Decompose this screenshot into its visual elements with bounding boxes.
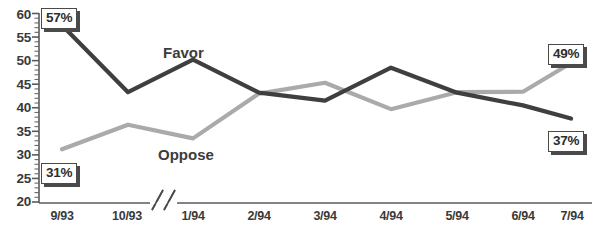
series-label-oppose: Oppose <box>158 147 214 162</box>
callout-oppose-start: 31% <box>41 163 77 184</box>
x-tick-label: 2/94 <box>247 210 270 223</box>
y-axis <box>32 13 39 203</box>
line-chart: 60 55 50 45 40 35 30 25 20 9/93 10 <box>0 0 599 237</box>
callout-favor-start: 57% <box>41 8 77 29</box>
x-tick-label: 9/93 <box>50 210 73 223</box>
callout-oppose-end: 49% <box>548 44 584 65</box>
x-tick-label: 1/94 <box>181 210 204 223</box>
series-label-favor: Favor <box>163 45 204 60</box>
plot-area <box>0 0 599 237</box>
x-axis <box>39 190 592 210</box>
x-tick-label: 10/93 <box>112 210 142 223</box>
series-line-oppose <box>62 63 571 149</box>
series-line-favor <box>62 25 571 118</box>
axis-break-marks <box>150 190 177 210</box>
x-tick-label: 3/94 <box>313 210 336 223</box>
x-tick-label: 6/94 <box>511 210 534 223</box>
x-tick-label: 5/94 <box>445 210 468 223</box>
x-tick-label: 4/94 <box>379 210 402 223</box>
x-tick-label: 7/94 <box>560 210 583 223</box>
callout-favor-end: 37% <box>548 131 584 152</box>
